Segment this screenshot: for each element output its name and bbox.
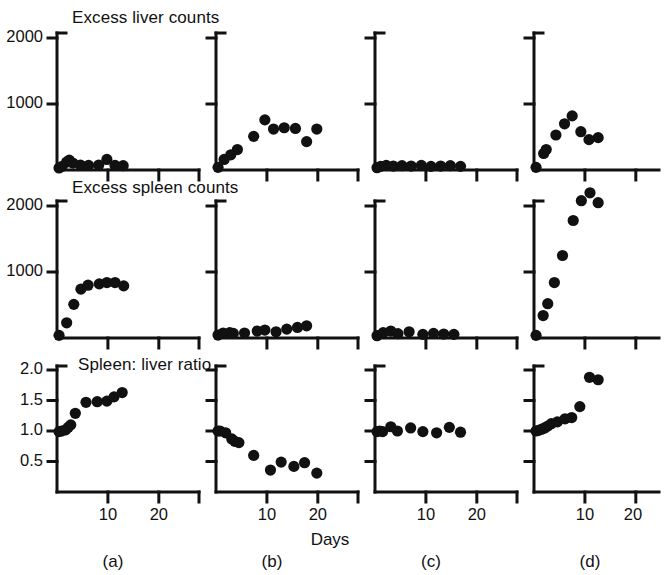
data-point: [270, 326, 281, 337]
data-point: [435, 160, 446, 171]
data-point: [416, 160, 427, 171]
xtick-label-col3-10: 10: [401, 505, 451, 524]
data-point: [549, 277, 560, 288]
data-point: [65, 419, 76, 430]
data-point: [118, 160, 129, 171]
data-point: [438, 328, 449, 339]
panel-label-d: (d): [550, 552, 630, 572]
data-point: [584, 187, 595, 198]
series-r1-d: [530, 110, 603, 173]
data-point: [428, 328, 439, 339]
data-point: [117, 387, 128, 398]
data-point: [538, 310, 549, 321]
ytick-label-row2-1000: 1000: [0, 261, 43, 280]
data-point: [425, 161, 436, 172]
axis-panel-r1-c3: [366, 33, 517, 180]
data-point: [259, 324, 270, 335]
ytick-label-row1-2000: 2000: [0, 27, 43, 46]
data-point: [279, 122, 290, 133]
xtick-label-col1-20: 20: [134, 505, 184, 524]
axis-panel-r2-c4: [525, 201, 659, 348]
panel-label-c: (c): [391, 552, 471, 572]
data-point: [392, 328, 403, 339]
data-point: [455, 427, 466, 438]
data-point: [118, 280, 129, 291]
data-point: [417, 329, 428, 340]
data-point: [299, 457, 310, 468]
data-point: [593, 197, 604, 208]
data-point: [404, 326, 415, 337]
panel-label-a: (a): [73, 552, 153, 572]
data-point: [530, 330, 541, 341]
data-point: [259, 114, 270, 125]
ytick-label-row3-1.5: 1.5: [0, 390, 43, 409]
data-point: [80, 397, 91, 408]
row-title-3: Spleen: liver ratio: [78, 355, 211, 375]
data-point: [288, 461, 299, 472]
series-r2-d: [530, 187, 603, 341]
row-title-2: Excess spleen counts: [72, 178, 238, 198]
series-r2-a: [53, 277, 129, 341]
data-point: [239, 327, 250, 338]
data-point: [82, 280, 93, 291]
data-point: [576, 195, 587, 206]
axis-panel-r3-c4: [525, 366, 659, 502]
data-point: [568, 215, 579, 226]
series-r3-c: [371, 421, 466, 438]
ytick-label-row3-1.0: 1.0: [0, 420, 43, 439]
data-point: [541, 144, 552, 155]
data-point: [566, 412, 577, 423]
data-point: [233, 437, 244, 448]
data-point: [83, 160, 94, 171]
data-point: [431, 427, 442, 438]
data-point: [311, 123, 322, 134]
data-point: [445, 160, 456, 171]
data-point: [542, 298, 553, 309]
data-point: [417, 426, 428, 437]
data-point: [70, 408, 81, 419]
ytick-label-row3-0.5: 0.5: [0, 451, 43, 470]
axis-panel-r3-c1: [48, 366, 199, 502]
data-point: [276, 457, 287, 468]
data-point: [455, 161, 466, 172]
series-r3-b: [212, 425, 322, 478]
ytick-label-row1-1000: 1000: [0, 93, 43, 112]
data-point: [92, 396, 103, 407]
series-r3-a: [53, 387, 127, 437]
data-point: [301, 136, 312, 147]
data-point: [574, 401, 585, 412]
xtick-label-col2-10: 10: [242, 505, 292, 524]
data-point: [593, 374, 604, 385]
xtick-label-col4-20: 20: [624, 505, 665, 524]
data-point: [550, 129, 561, 140]
data-point: [53, 330, 64, 341]
data-point: [567, 110, 578, 121]
data-point: [593, 132, 604, 143]
series-r1-b: [212, 114, 322, 173]
data-point: [557, 250, 568, 261]
xtick-label-col3-20: 20: [452, 505, 502, 524]
panel-label-b: (b): [232, 552, 312, 572]
data-point: [290, 123, 301, 134]
series-r3-d: [530, 372, 603, 437]
data-point: [575, 126, 586, 137]
ytick-label-row3-2.0: 2.0: [0, 359, 43, 378]
data-point: [301, 320, 312, 331]
data-point: [228, 328, 239, 339]
data-point: [68, 299, 79, 310]
data-point: [248, 450, 259, 461]
data-point: [232, 144, 243, 155]
ytick-label-row2-2000: 2000: [0, 195, 43, 214]
data-point: [392, 425, 403, 436]
data-point: [406, 160, 417, 171]
data-point: [530, 162, 541, 173]
data-point: [405, 422, 416, 433]
data-point: [265, 464, 276, 475]
data-point: [448, 329, 459, 340]
data-point: [444, 422, 455, 433]
xtick-label-col1-10: 10: [83, 505, 133, 524]
data-point: [311, 467, 322, 478]
data-point: [248, 131, 259, 142]
